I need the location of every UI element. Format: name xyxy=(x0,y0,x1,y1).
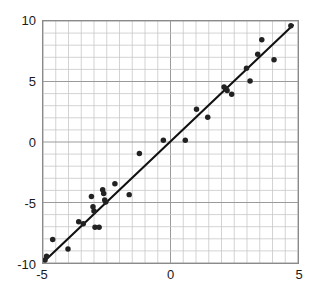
y-tick-label: 5 xyxy=(29,75,36,88)
x-tick-label: 5 xyxy=(295,268,302,281)
data-point xyxy=(271,57,276,62)
data-point xyxy=(247,78,252,83)
y-tick-label: 10 xyxy=(22,14,36,27)
data-point xyxy=(91,208,96,213)
data-marks xyxy=(43,21,298,263)
data-point xyxy=(101,191,106,196)
data-point xyxy=(137,151,142,156)
y-axis-tick-labels: 1050-5-10 xyxy=(0,0,36,298)
data-point xyxy=(112,181,117,186)
data-point xyxy=(65,246,70,251)
data-point xyxy=(224,88,229,93)
data-point xyxy=(194,107,199,112)
data-point xyxy=(205,114,210,119)
x-tick-label: 0 xyxy=(167,268,174,281)
data-point xyxy=(229,91,234,96)
x-axis-tick-labels: -505 xyxy=(0,268,315,292)
plot-area xyxy=(42,20,299,264)
y-tick-label: 0 xyxy=(29,136,36,149)
data-point xyxy=(81,221,86,226)
data-point xyxy=(161,137,166,142)
x-tick-label: -5 xyxy=(36,268,48,281)
data-point xyxy=(259,37,264,42)
scatter-plot-figure: 1050-5-10 -505 xyxy=(0,0,315,298)
data-point xyxy=(50,237,55,242)
data-point xyxy=(244,65,249,70)
data-point xyxy=(44,254,49,259)
data-point xyxy=(103,199,108,204)
data-point xyxy=(126,192,131,197)
y-tick-label: -5 xyxy=(24,197,36,210)
data-point xyxy=(255,52,260,57)
data-point xyxy=(183,137,188,142)
data-point xyxy=(288,23,293,28)
data-point xyxy=(96,225,101,230)
data-point xyxy=(89,194,94,199)
